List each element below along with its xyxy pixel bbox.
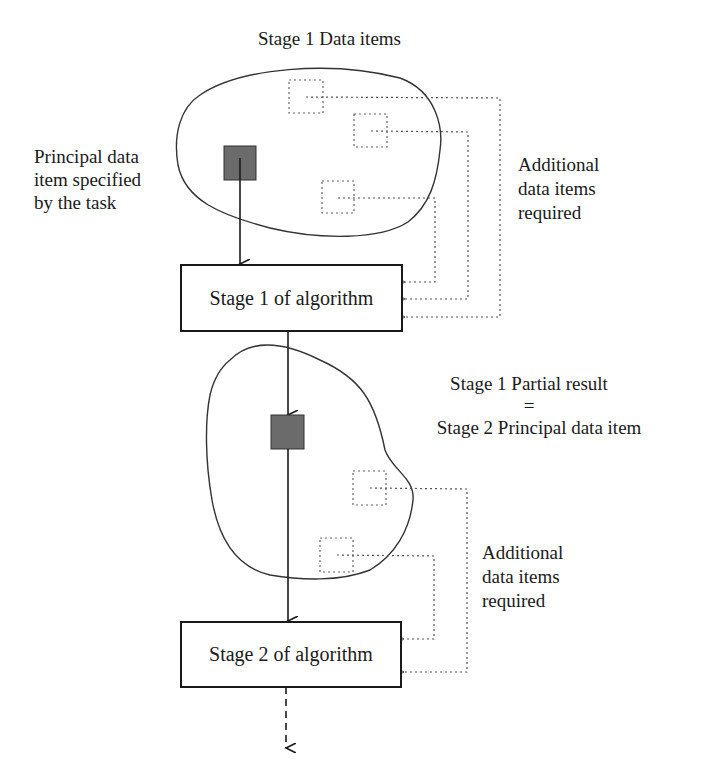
additional-label-1-line2: data items	[518, 178, 596, 200]
stage1-algorithm-box: Stage 1 of algorithm	[180, 264, 403, 332]
partial-result-line2: Stage 2 Principal data item	[414, 417, 664, 439]
principal-data-item-2	[271, 415, 304, 449]
stage2-algorithm-box: Stage 2 of algorithm	[180, 621, 402, 688]
additional-item-1c	[322, 181, 354, 213]
principal-label-line3: by the task	[34, 192, 116, 214]
principal-label-line2: item specified	[34, 169, 141, 191]
additional-label-2-line1: Additional	[482, 542, 563, 564]
additional-label-1-line3: required	[518, 202, 581, 224]
stage2-data-blob	[206, 345, 413, 579]
partial-result-line1: Stage 1 Partial result	[424, 373, 634, 395]
stage1-data-items-title: Stage 1 Data items	[258, 28, 401, 50]
additional-label-1-line1: Additional	[518, 154, 599, 176]
principal-label-line1: Principal data	[34, 146, 139, 168]
additional-label-2-line2: data items	[482, 566, 560, 588]
stage1-data-blob	[176, 68, 440, 236]
additional-label-2-line3: required	[482, 590, 545, 612]
partial-result-equals: =	[424, 395, 634, 417]
additional-item-1b	[354, 114, 387, 147]
